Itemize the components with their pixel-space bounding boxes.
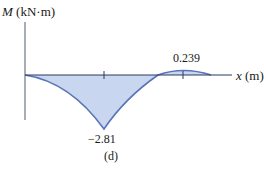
- x-axis-unit: (m): [245, 68, 264, 83]
- x-axis-variable: x: [236, 68, 242, 83]
- y-axis-variable: M: [2, 4, 13, 19]
- y-axis-unit: (kN·m): [16, 4, 55, 19]
- figure-caption: (d): [104, 150, 118, 162]
- x-axis-label: x (m): [236, 69, 264, 82]
- min-value-label: −2.81: [88, 133, 116, 145]
- y-axis-label: M (kN·m): [2, 5, 55, 18]
- negative-moment-region: [25, 75, 158, 129]
- moment-diagram: [0, 0, 268, 170]
- max-value-label: 0.239: [173, 52, 200, 64]
